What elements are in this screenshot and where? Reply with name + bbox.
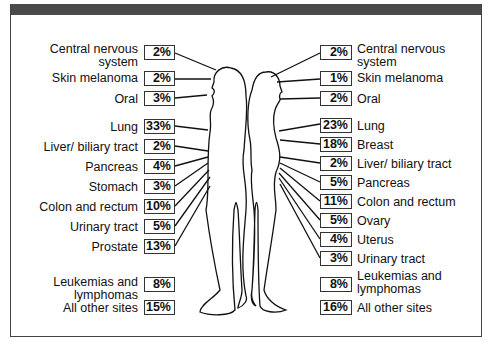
female-value-cns: 2% [320, 45, 352, 60]
female-label-leukemias-line2: lymphomas [357, 283, 442, 296]
female-label-colon: Colon and rectum [357, 196, 456, 209]
female-figure-outline [248, 72, 286, 312]
male-value-urinary: 5% [144, 219, 175, 234]
female-value-urinary: 3% [320, 251, 352, 266]
male-label-urinary: Urinary tract [20, 221, 138, 234]
female-value-ovary: 5% [320, 213, 352, 228]
male-label-liver: Liver/ biliary tract [20, 141, 138, 154]
female-value-leukemias: 8% [320, 277, 352, 292]
male-value-cns: 2% [144, 45, 175, 60]
male-value-pancreas: 4% [144, 159, 175, 174]
female-label-liver: Liver/ biliary tract [357, 158, 451, 171]
male-value-oral: 3% [144, 91, 175, 106]
female-value-other: 16% [320, 300, 352, 315]
female-label-lung: Lung [357, 120, 385, 133]
male-value-prostate: 13% [144, 239, 175, 254]
female-value-lung: 23% [320, 118, 352, 133]
female-label-ovary: Ovary [357, 215, 390, 228]
female-value-skin-melanoma: 1% [320, 71, 352, 86]
male-label-pancreas: Pancreas [20, 161, 138, 174]
male-value-stomach: 3% [144, 179, 175, 194]
male-label-prostate: Prostate [20, 241, 138, 254]
female-value-pancreas: 5% [320, 175, 352, 190]
female-label-uterus: Uterus [357, 234, 394, 247]
male-value-liver: 2% [144, 139, 175, 154]
male-label-cns-line2: system [30, 56, 138, 69]
male-value-colon: 10% [144, 199, 175, 214]
female-value-liver: 2% [320, 156, 352, 171]
female-value-colon: 11% [320, 194, 352, 209]
female-label-breast: Breast [357, 139, 393, 152]
female-leader-lines [271, 53, 320, 258]
male-label-stomach: Stomach [20, 181, 138, 194]
male-label-lung: Lung [20, 121, 138, 134]
female-label-other: All other sites [357, 302, 432, 315]
male-label-leukemias: Leukemias and lymphomas [20, 276, 138, 302]
female-label-urinary: Urinary tract [357, 253, 425, 266]
male-label-cns: Central nervous system [30, 43, 138, 69]
female-label-cns-line2: system [357, 56, 445, 69]
male-value-other: 15% [144, 300, 175, 315]
female-label-skin-melanoma: Skin melanoma [357, 72, 443, 85]
male-label-skin-melanoma: Skin melanoma [20, 72, 138, 85]
male-value-lung: 33% [144, 119, 175, 134]
female-label-pancreas: Pancreas [357, 177, 410, 190]
male-label-colon: Colon and rectum [10, 201, 138, 214]
female-label-leukemias: Leukemias and lymphomas [357, 270, 442, 296]
male-value-leukemias: 8% [144, 277, 175, 292]
male-label-other: All other sites [20, 302, 138, 315]
male-leader-lines [175, 53, 216, 246]
male-label-oral: Oral [20, 93, 138, 106]
female-value-uterus: 4% [320, 232, 352, 247]
male-value-skin-melanoma: 2% [144, 71, 175, 86]
female-label-cns: Central nervous system [357, 43, 445, 69]
female-value-breast: 18% [320, 137, 352, 152]
female-value-oral: 2% [320, 91, 352, 106]
female-label-oral: Oral [357, 93, 381, 106]
